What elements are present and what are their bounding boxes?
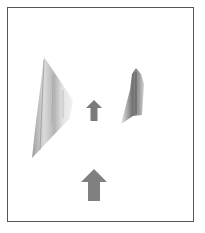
large-arrow-icon <box>81 169 107 201</box>
left-shard-shape <box>32 57 73 158</box>
small-arrow-icon <box>86 100 102 121</box>
diagram-canvas <box>0 0 205 233</box>
right-shard-shape <box>121 68 144 124</box>
